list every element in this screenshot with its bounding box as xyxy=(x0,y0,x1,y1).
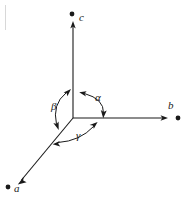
axis-a-endpoint-dot xyxy=(6,185,11,190)
angle-label-alpha: α xyxy=(95,92,101,103)
axis-a-line xyxy=(22,118,74,180)
axis-b xyxy=(73,115,180,120)
angle-arc-gamma-head-b xyxy=(90,122,98,129)
axis-b-endpoint-dot xyxy=(176,116,181,121)
angle-arc-beta-head-c xyxy=(64,89,71,96)
angle-arc-alpha xyxy=(79,91,107,118)
axis-a xyxy=(6,118,73,189)
angle-label-beta: β xyxy=(51,101,56,112)
axes-diagram-figure: a b c α β γ xyxy=(0,0,186,197)
axis-c-endpoint-dot xyxy=(70,12,75,17)
axis-label-b: b xyxy=(168,100,174,111)
axis-c xyxy=(70,12,76,118)
axis-label-a: a xyxy=(14,183,20,194)
axis-label-c: c xyxy=(79,12,84,23)
angle-label-gamma: γ xyxy=(76,130,80,141)
axes-diagram-canvas xyxy=(0,0,186,197)
angle-arc-beta-path xyxy=(55,93,66,125)
